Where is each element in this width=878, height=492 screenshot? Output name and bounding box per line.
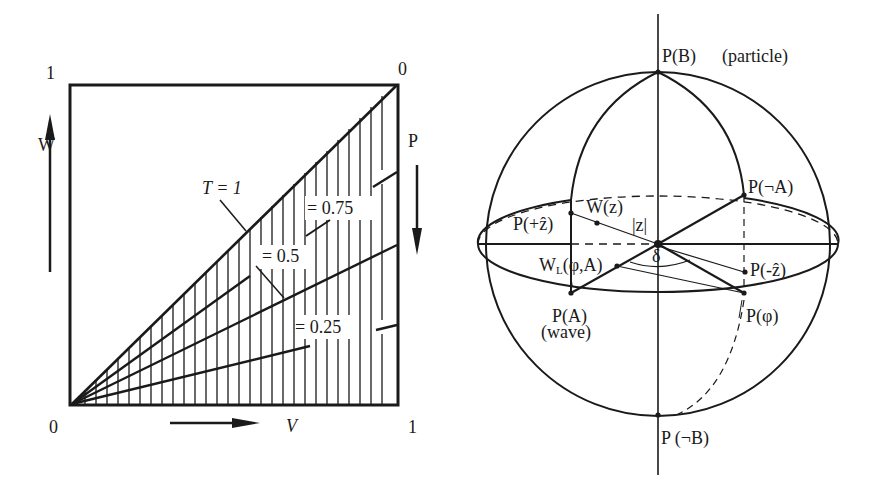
point-pminusz [742,269,747,274]
corner-label-top-right: 0 [398,59,407,79]
axis-label-w: W [38,135,55,155]
meridian-left [571,72,658,200]
label-particle: (particle) [722,46,788,67]
label-pb: P(B) [662,46,696,67]
point-wl [614,263,619,268]
point-wz [594,220,599,225]
point-pphi [741,290,746,295]
p-arrow-icon [412,228,422,255]
axis-label-v: V [286,416,299,436]
point-pplusz [568,210,573,215]
label-wl-args: (φ,A) [563,255,603,276]
curve-t-1 [72,85,397,404]
label-delta: δ [652,246,660,266]
label-pnota: P(¬A) [748,177,793,198]
label-wz: W(z) [586,197,623,218]
label-wl-main: W [539,255,556,275]
label-pminusz: P(-ẑ) [750,260,786,281]
label-wave: (wave) [541,322,591,343]
figure-canvas: 1 0 0 1 W P V T = 1 = 0.75 = 0.5 = 0.25 [0,0,878,492]
label-pnotb: P (¬B) [661,428,709,449]
label-absz: |z| [632,215,647,235]
leader-t1 [220,200,246,231]
leader-t05 [256,266,284,298]
spoke-to-pnota [658,195,744,244]
corner-label-bottom-right: 1 [408,417,417,437]
label-pplusz: P(+ẑ) [513,214,553,235]
curve-t-0-25 [72,346,310,404]
label-pphi: P(φ) [746,306,778,327]
curve-t-0-75 [72,276,250,404]
label-t-0-5: = 0.5 [262,246,299,266]
corner-label-top-left: 1 [46,63,55,83]
label-t-0-75: = 0.75 [307,198,353,218]
meridian-right-lower [678,300,744,414]
meridian-right [658,72,744,195]
point-pb [655,69,660,74]
point-pnotb [655,412,660,417]
axis-label-p: P [408,131,418,151]
v-arrow-icon [232,418,260,428]
left-diagram [45,85,422,428]
equator-back-right-solid [744,198,839,244]
point-pnota [741,192,746,197]
corner-label-bottom-left: 0 [49,417,58,437]
line-wl-to-pphi [617,266,744,293]
label-t-0-25: = 0.25 [295,317,341,337]
point-pa [568,290,573,295]
label-wl: WL(φ,A) [539,255,603,276]
label-t-1: T = 1 [202,178,242,198]
wl-leader [571,279,572,287]
